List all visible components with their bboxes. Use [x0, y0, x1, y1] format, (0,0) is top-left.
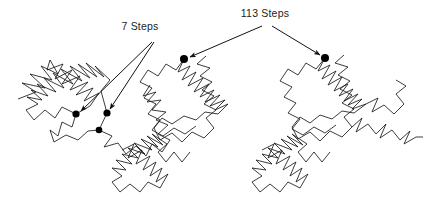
leader-arrow-small-scale-2	[110, 42, 154, 109]
walk-far-right-tail	[352, 118, 423, 144]
leader-arrow-small-scale-1	[81, 42, 152, 111]
large-scale-marker-left	[180, 55, 188, 63]
leader-arrow-large-scale-2	[272, 26, 320, 55]
annotation-label-113-steps: 113 Steps	[241, 7, 289, 19]
walk-cluster-mid	[154, 56, 228, 142]
small-scale-marker-b	[103, 109, 110, 116]
random-walk-figure: 7 Steps 113 Steps	[0, 0, 423, 220]
small-scale-marker-a	[72, 110, 79, 117]
walk-lower-right-cluster	[252, 134, 330, 192]
small-scale-marker-c	[96, 127, 103, 134]
vertex-markers-group	[72, 54, 329, 133]
walk-cluster-left	[18, 60, 110, 120]
walk-lower-left-cluster	[112, 134, 190, 192]
walk-polylines-group	[18, 55, 423, 192]
walk-far-right-upper	[366, 80, 406, 114]
large-scale-marker-right	[321, 54, 329, 62]
annotation-leader-lines-group	[81, 26, 320, 111]
annotation-label-7-steps: 7 Steps	[121, 20, 158, 32]
leader-arrow-large-scale-1	[190, 26, 262, 57]
